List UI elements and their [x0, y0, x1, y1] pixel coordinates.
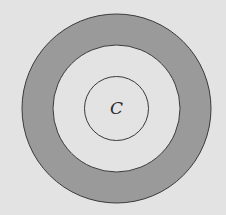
diagram-svg: C — [0, 0, 226, 215]
concentric-circles-diagram: C — [0, 0, 226, 215]
center-label: C — [110, 98, 123, 118]
